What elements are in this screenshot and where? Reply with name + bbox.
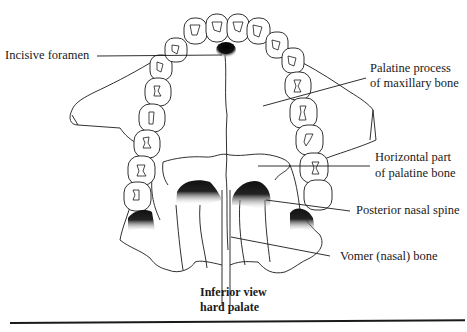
right-choana-shade <box>232 181 271 210</box>
incisive-foramen-mark <box>216 42 236 58</box>
figure-caption: Inferior view hard palate <box>200 285 267 315</box>
right-pterygoid-shade <box>290 208 315 232</box>
label-palatine-process-line2: of maxillary bone <box>370 76 459 91</box>
label-palatine-process-line1: Palatine process <box>370 61 451 76</box>
hard-palate-diagram: Incisive foramen Palatine process of max… <box>0 0 467 332</box>
left-choana-shade <box>176 180 222 205</box>
caption-line2: hard palate <box>200 300 267 315</box>
label-posterior-nasal-spine: Posterior nasal spine <box>356 203 459 218</box>
caption-line1: Inferior view <box>200 285 267 300</box>
label-horizontal-part-line2: of palatine bone <box>375 166 456 181</box>
median-palatine-suture <box>225 55 228 250</box>
label-horizontal-part-line1: Horizontal part <box>375 150 451 165</box>
label-vomer: Vomer (nasal) bone <box>340 249 438 264</box>
label-incisive-foramen: Incisive foramen <box>5 48 89 63</box>
left-pterygoid-shade <box>128 210 155 232</box>
